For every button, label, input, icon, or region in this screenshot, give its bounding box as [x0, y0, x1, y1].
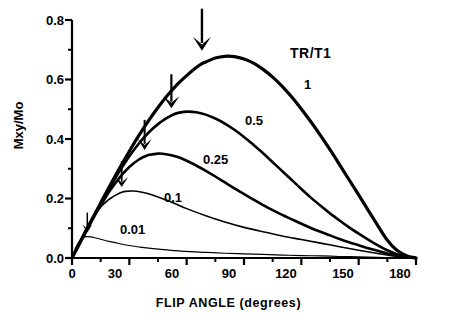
legend-title: TR/T1	[290, 45, 331, 61]
y-tick-label-0-8: 0.8	[28, 13, 64, 28]
x-tick-label-30: 30	[101, 266, 129, 281]
series-label-0-01: 0.01	[120, 222, 145, 237]
x-tick-label-120: 120	[272, 266, 300, 281]
y-tick-label-0-2: 0.2	[28, 191, 64, 206]
y-axis-title: Mxy/Mo	[11, 86, 26, 166]
series-label-0-25: 0.25	[203, 152, 228, 167]
chart-figure: 0.8 0.6 0.4 0.2 0.0 0 30 60 90 120 150 1…	[0, 0, 457, 322]
series-label-1: 1	[304, 77, 311, 92]
x-tick-label-150: 150	[329, 266, 357, 281]
x-tick-label-60: 60	[158, 266, 186, 281]
arrow-peak-1	[193, 9, 211, 51]
series-label-0-1: 0.1	[164, 190, 182, 205]
x-axis-title: FLIP ANGLE (degrees)	[0, 296, 457, 310]
arrow-peak-0-5	[163, 74, 179, 108]
y-tick-label-0-6: 0.6	[28, 72, 64, 87]
y-tick-label-0-0: 0.0	[28, 251, 64, 266]
x-tick-label-180: 180	[386, 266, 414, 281]
series-label-0-5: 0.5	[245, 113, 263, 128]
x-tick-label-90: 90	[215, 266, 243, 281]
y-tick-label-0-4: 0.4	[28, 132, 64, 147]
x-tick-label-0: 0	[58, 266, 86, 281]
